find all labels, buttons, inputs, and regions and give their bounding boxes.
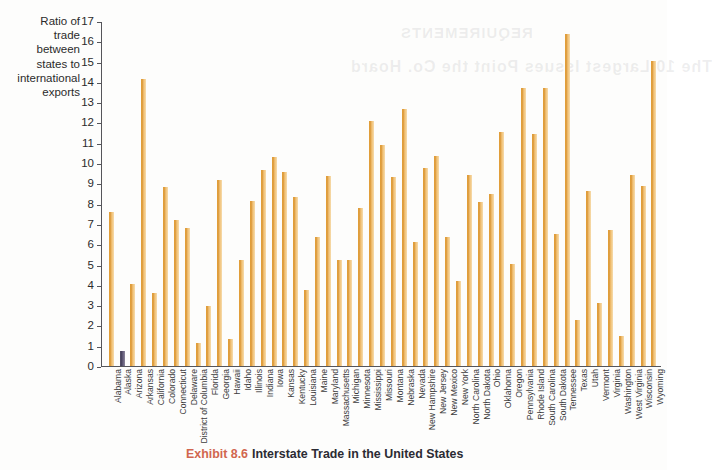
bar <box>217 180 222 366</box>
x-axis-label: New York <box>461 369 470 405</box>
bar <box>347 260 352 366</box>
y-axis-tick-label: 7 <box>54 219 94 231</box>
x-axis-label: Delaware <box>190 369 199 405</box>
bar <box>478 202 483 366</box>
y-axis-tick-label: 15 <box>54 57 94 69</box>
x-axis-label: Michigan <box>352 369 361 403</box>
x-axis-label: Montana <box>396 369 405 402</box>
y-axis-tick-mark <box>97 367 101 368</box>
y-axis-tick-mark <box>97 306 101 307</box>
x-axis-label: Alaska <box>124 369 133 395</box>
y-axis-tick-mark <box>97 225 101 226</box>
x-axis-label: Vermont <box>602 369 611 401</box>
x-axis-label: Indiana <box>266 369 275 397</box>
bar <box>532 134 537 366</box>
bar <box>109 212 114 366</box>
x-axis-label: South Carolina <box>548 369 557 426</box>
bar <box>185 228 190 366</box>
bar <box>228 339 233 366</box>
x-axis-label: Alabama <box>114 369 123 403</box>
y-axis-tick-label: 10 <box>54 158 94 170</box>
bar <box>402 109 407 366</box>
bar <box>152 293 157 366</box>
x-axis-label: Nevada <box>418 369 427 399</box>
x-axis-label: Wisconsin <box>645 369 654 408</box>
x-axis-label: Georgia <box>222 369 231 400</box>
y-axis-tick-mark <box>97 184 101 185</box>
bar <box>272 157 277 366</box>
x-axis-label: Utah <box>591 369 600 387</box>
x-axis-label: Kentucky <box>298 369 307 404</box>
bar <box>641 186 646 366</box>
bar <box>315 237 320 366</box>
bar <box>423 168 428 366</box>
x-axis-label: Ohio <box>493 369 502 387</box>
x-axis-label: New Hampshire <box>428 369 437 430</box>
bar <box>510 264 515 366</box>
y-axis-tick-label: 4 <box>54 280 94 292</box>
x-axis-label: Mississippi <box>374 369 383 411</box>
bar <box>499 132 504 366</box>
bar <box>141 79 146 366</box>
y-axis-tick-mark <box>97 22 101 23</box>
y-axis-tick-label: 11 <box>54 138 94 150</box>
bar <box>630 175 635 366</box>
bar <box>163 187 168 366</box>
x-axis-label: California <box>157 369 166 405</box>
x-axis-label: Minnesota <box>363 369 372 409</box>
x-axis-label: Maryland <box>331 369 340 404</box>
bar <box>304 290 309 366</box>
x-axis-label: District of Columbia <box>200 369 209 444</box>
x-axis-label: Washington <box>624 369 633 414</box>
y-axis-tick-mark <box>97 63 101 64</box>
y-axis-tick-label: 1 <box>54 341 94 353</box>
x-axis-label: Illinois <box>255 369 264 393</box>
y-axis-tick-mark <box>97 144 101 145</box>
bar <box>445 237 450 366</box>
y-axis-tick-label: 9 <box>54 178 94 190</box>
bar <box>261 170 266 366</box>
x-axis-label: Massachusetts <box>342 369 351 426</box>
bar <box>413 242 418 366</box>
x-axis-label: Pennsylvania <box>526 369 535 420</box>
bar <box>358 208 363 366</box>
y-axis-tick-mark <box>97 326 101 327</box>
y-axis-tick-mark <box>97 123 101 124</box>
y-axis-tick-label: 6 <box>54 239 94 251</box>
bar <box>619 336 624 366</box>
bar <box>130 284 135 366</box>
y-axis-tick-mark <box>97 103 101 104</box>
y-axis-tick-mark <box>97 164 101 165</box>
bar <box>380 145 385 366</box>
bar <box>467 175 472 366</box>
x-axis-label: Maine <box>320 369 329 392</box>
bar <box>326 176 331 366</box>
y-axis-tick-label: 13 <box>54 97 94 109</box>
x-axis-labels: AlabamaAlaskaArizonaArkansasCaliforniaCo… <box>101 369 661 447</box>
x-axis-label: Hawaii <box>233 369 242 395</box>
bar <box>369 121 374 366</box>
x-axis-label: Arizona <box>135 369 144 398</box>
x-axis-label: New Mexico <box>450 369 459 416</box>
x-axis-label: Florida <box>211 369 220 395</box>
x-axis-label: Arkansas <box>146 369 155 405</box>
bar <box>391 177 396 366</box>
x-axis-label: Tennessee <box>569 369 578 411</box>
y-axis-tick-mark <box>97 347 101 348</box>
bar <box>608 230 613 366</box>
x-axis-label: South Dakota <box>559 369 568 421</box>
bar <box>282 172 287 366</box>
x-axis-label: Rhode Island <box>537 369 546 420</box>
x-axis-label: Oklahoma <box>504 369 513 408</box>
x-axis-label: Idaho <box>244 369 253 391</box>
bar <box>120 351 125 366</box>
y-axis-tick-mark <box>97 266 101 267</box>
y-axis-tick-label: 2 <box>54 320 94 332</box>
figure-caption: Exhibit 8.6Interstate Trade in the Unite… <box>186 447 463 461</box>
y-axis-tick-label: 8 <box>54 199 94 211</box>
y-axis-tick-label: 17 <box>54 16 94 28</box>
x-axis-label: Kansas <box>287 369 296 398</box>
bar <box>174 220 179 366</box>
bar <box>196 343 201 366</box>
